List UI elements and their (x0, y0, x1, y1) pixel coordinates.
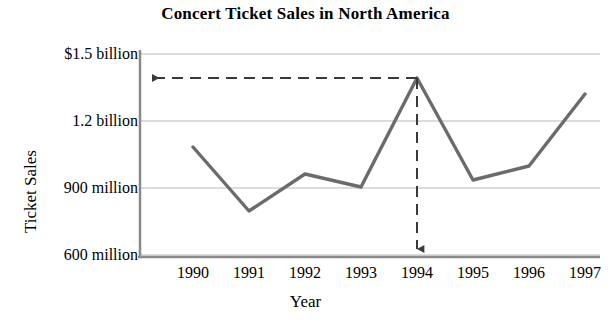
chart-container: Concert Ticket Sales in North America Ti… (0, 0, 611, 321)
plot-area (0, 0, 611, 321)
x-axis-label: Year (0, 292, 611, 312)
data-line-series (193, 78, 585, 211)
gridlines (140, 54, 600, 255)
axes (138, 50, 600, 258)
